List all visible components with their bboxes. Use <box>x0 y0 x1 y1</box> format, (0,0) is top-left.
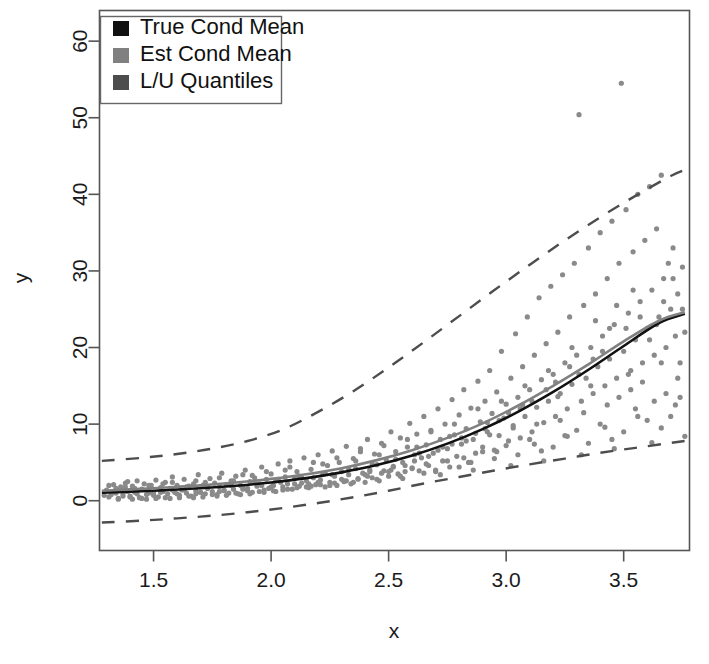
scatter-point <box>106 483 111 488</box>
scatter-point <box>508 376 513 381</box>
scatter-point <box>579 399 584 404</box>
scatter-point <box>170 474 175 479</box>
scatter-point <box>614 303 619 308</box>
scatter-point <box>473 451 478 456</box>
figure-container: 1.52.02.53.03.5 0102030405060 x y True C… <box>0 0 709 664</box>
scatter-point <box>402 469 407 474</box>
scatter-point <box>548 284 553 289</box>
scatter-point <box>431 451 436 456</box>
scatter-point <box>353 458 358 463</box>
scatter-point <box>287 458 292 463</box>
scatter-point <box>504 402 509 407</box>
scatter-point <box>355 476 360 481</box>
scatter-point <box>421 414 426 419</box>
scatter-point <box>623 326 628 331</box>
scatter-point <box>605 276 610 281</box>
scatter-point <box>247 491 252 496</box>
scatter-point <box>626 310 631 315</box>
scatter-point <box>522 383 527 388</box>
x-tick-label: 3.5 <box>609 568 638 591</box>
scatter-point <box>142 481 147 486</box>
scatter-point <box>623 207 628 212</box>
scatter-point <box>640 379 645 384</box>
scatter-point <box>612 322 617 327</box>
scatter-point <box>285 487 290 492</box>
scatter-point <box>675 376 680 381</box>
scatter-point <box>546 368 551 373</box>
scatter-point <box>471 437 476 442</box>
scatter-point <box>167 496 172 501</box>
scatter-point <box>367 469 372 474</box>
scatter-point <box>602 383 607 388</box>
scatter-point <box>616 395 621 400</box>
scatter-point <box>621 349 626 354</box>
scatter-point <box>445 446 450 451</box>
scatter-point <box>565 434 570 439</box>
scatter-point <box>532 353 537 358</box>
scatter-point <box>257 489 262 494</box>
scatter-point <box>461 387 466 392</box>
scatter-point <box>539 448 544 453</box>
scatter-point <box>405 437 410 442</box>
scatter-point <box>513 331 518 336</box>
scatter-point <box>299 481 304 486</box>
scatter-point <box>457 464 462 469</box>
scatter-point <box>522 414 527 419</box>
scatter-point <box>652 399 657 404</box>
scatter-point <box>374 477 379 482</box>
x-axis-title: x <box>389 619 400 642</box>
scatter-point <box>602 425 607 430</box>
scatter-point <box>553 414 558 419</box>
scatter-point <box>153 496 158 501</box>
scatter-point <box>243 467 248 472</box>
scatter-point <box>619 81 624 86</box>
scatter-point <box>518 435 523 440</box>
scatter-point <box>541 420 546 425</box>
scatter-point <box>198 490 203 495</box>
scatter-point <box>487 432 492 437</box>
scatter-point <box>163 495 168 500</box>
scatter-point <box>673 333 678 338</box>
scatter-point <box>346 472 351 477</box>
scatter-point <box>207 476 212 481</box>
scatter-point <box>452 422 457 427</box>
scatter-point <box>419 455 424 460</box>
scatter-point <box>268 471 273 476</box>
legend-swatch <box>113 48 129 63</box>
scatter-point <box>534 405 539 410</box>
scatter-point <box>191 495 196 500</box>
scatter-point <box>609 437 614 442</box>
scatter-point <box>240 472 245 477</box>
scatter-point <box>607 326 612 331</box>
scatter-point <box>678 360 683 365</box>
scatter-point <box>144 497 149 502</box>
scatter-point <box>583 376 588 381</box>
y-tick-label: 60 <box>68 29 91 52</box>
scatter-point <box>598 230 603 235</box>
scatter-point <box>670 276 675 281</box>
scatter-point <box>153 477 158 482</box>
scatter-point <box>539 377 544 382</box>
scatter-point <box>663 391 668 396</box>
scatter-point <box>616 261 621 266</box>
y-tick-label: 30 <box>68 259 91 282</box>
scatter-point <box>581 303 586 308</box>
scatter-point <box>527 437 532 442</box>
scatter-point <box>475 406 480 411</box>
scatter-point <box>591 391 596 396</box>
y-axis-title: y <box>9 272 32 283</box>
scatter-point <box>233 474 238 479</box>
scatter-point <box>588 345 593 350</box>
x-tick-label: 3.0 <box>492 568 521 591</box>
scatter-point <box>125 479 130 484</box>
scatter-point <box>214 494 219 499</box>
scatter-point <box>520 364 525 369</box>
scatter-point <box>459 441 464 446</box>
scatter-point <box>196 472 201 477</box>
scatter-point <box>682 330 687 335</box>
y-tick-label: 10 <box>68 412 91 435</box>
scatter-point <box>560 272 565 277</box>
scatter-point <box>219 471 224 476</box>
scatter-point <box>433 467 438 472</box>
scatter-point <box>193 478 198 483</box>
